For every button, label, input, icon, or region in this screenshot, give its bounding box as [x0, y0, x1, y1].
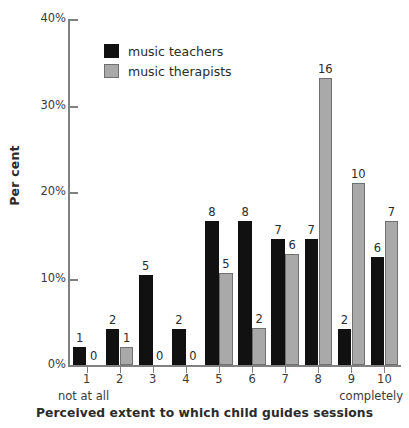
x-axis-tick-label: 5 — [204, 372, 234, 386]
y-axis-tick-label: 40% — [40, 11, 66, 25]
bar-value-label: 1 — [114, 331, 140, 345]
legend-item-therapists: music therapists — [104, 62, 232, 80]
bar-teachers-6 — [238, 221, 252, 365]
bar-therapists-6 — [252, 328, 266, 365]
bar-therapists-5 — [219, 273, 233, 365]
bar-value-label: 1 — [67, 331, 93, 345]
bar-value-label: 6 — [279, 238, 305, 252]
bar-value-label: 16 — [312, 62, 338, 76]
x-axis-anchor-low: not at all — [58, 389, 109, 403]
bar-teachers-9 — [338, 329, 352, 365]
x-axis-title: Perceived extent to which child guides s… — [0, 406, 409, 420]
y-axis-tick-label: 20% — [40, 184, 66, 198]
y-axis-title: Per cent — [7, 131, 22, 221]
y-axis-tick: 0% — [0, 365, 78, 366]
x-axis-tick-label: 8 — [303, 372, 333, 386]
bar-therapists-9 — [352, 183, 366, 365]
y-axis-tick: 40% — [0, 19, 78, 20]
bar-value-label: 8 — [199, 205, 225, 219]
bar-value-label: 5 — [213, 257, 239, 271]
bar-value-label: 7 — [378, 205, 404, 219]
bar-teachers-10 — [371, 257, 385, 365]
legend-swatch-icon — [104, 64, 119, 78]
bar-value-label: 10 — [345, 167, 371, 181]
chart-legend: music teachers music therapists — [104, 42, 232, 82]
bar-value-label: 0 — [180, 349, 206, 363]
bar-therapists-10 — [385, 221, 399, 365]
x-axis-tick-label: 3 — [138, 372, 168, 386]
legend-item-teachers: music teachers — [104, 42, 232, 60]
bar-teachers-5 — [205, 221, 219, 365]
bar-value-label: 2 — [100, 313, 126, 327]
bar-therapists-8 — [319, 78, 333, 365]
bar-value-label: 2 — [246, 312, 272, 326]
y-axis-tick: 10% — [0, 279, 78, 280]
bar-teachers-7 — [271, 239, 285, 365]
bar-value-label: 2 — [166, 313, 192, 327]
legend-label: music therapists — [128, 64, 232, 79]
y-axis-tick-label: 0% — [48, 357, 66, 371]
y-axis-tick: 30% — [0, 106, 78, 107]
bar-value-label: 7 — [265, 223, 291, 237]
x-axis-tick-label: 6 — [237, 372, 267, 386]
x-axis-tick-label: 4 — [171, 372, 201, 386]
legend-swatch-icon — [104, 44, 119, 58]
bar-therapists-7 — [285, 254, 299, 365]
x-axis-anchor-high: completely — [339, 389, 403, 403]
x-axis-tick-label: 7 — [270, 372, 300, 386]
bar-value-label: 0 — [147, 349, 173, 363]
legend-label: music teachers — [128, 44, 223, 59]
bar-value-label: 0 — [81, 349, 107, 363]
x-axis-tick-label: 1 — [72, 372, 102, 386]
bar-therapists-2 — [120, 347, 134, 365]
y-axis-tick-label: 30% — [40, 98, 66, 112]
y-axis-tick: 20% — [0, 192, 78, 193]
x-axis-tick-label: 10 — [369, 372, 399, 386]
bar-chart: Per cent 0%10%20%30%40% 1021502085827671… — [0, 0, 409, 428]
bar-value-label: 5 — [133, 259, 159, 273]
bar-value-label: 8 — [232, 205, 258, 219]
bar-teachers-8 — [305, 239, 319, 365]
x-axis-tick-label: 9 — [336, 372, 366, 386]
y-axis-tick-label: 10% — [40, 271, 66, 285]
x-axis-tick-label: 2 — [105, 372, 135, 386]
